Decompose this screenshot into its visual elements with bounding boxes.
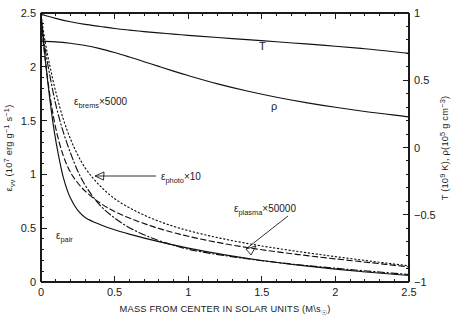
brems-sub: brems: [78, 101, 99, 110]
yr-mid2: g cm: [440, 108, 450, 132]
y-right-tick-label: 0.5: [414, 74, 429, 86]
curve-label-rho: ρ: [271, 100, 277, 112]
pair-sub: pair: [60, 235, 73, 244]
yl-exp2: −1: [2, 124, 11, 133]
y-right-tick-label: −1: [414, 276, 427, 288]
y-left-tick-label: 2: [30, 61, 36, 73]
y-right-tick-label: 0: [414, 142, 420, 154]
x-tick-label: 1.5: [254, 286, 269, 298]
figure-container: 00.511.522.500.511.522.5−1−0.500.51 T ρ …: [0, 0, 457, 322]
x-tick-label: 0.5: [107, 286, 122, 298]
x-tick-label: 1: [185, 286, 191, 298]
x-title-main: MASS FROM CENTER IN SOLAR UNITS (M\s: [120, 304, 322, 314]
y-left-tick-label: 2.5: [21, 7, 36, 19]
plasma-suffix: ×50000: [262, 203, 296, 214]
curve-label-T: T: [259, 40, 266, 52]
x-title-close: ): [327, 304, 330, 314]
chart-svg: 00.511.522.500.511.522.5−1−0.500.51 T ρ …: [0, 0, 457, 322]
y-left-tick-label: 0: [30, 276, 36, 288]
yl-mid2: s: [4, 117, 14, 125]
yr-t: T (10: [440, 178, 450, 201]
y-left-tick-label: 1.5: [21, 115, 36, 127]
y-right-tick-label: −0.5: [414, 209, 436, 221]
brems-suffix: ×5000: [99, 96, 128, 107]
yl-exp3: −1: [2, 108, 11, 117]
yl-mid: erg g: [4, 133, 14, 158]
y-right-tick-label: 1: [414, 7, 420, 19]
plasma-sub: plasma: [238, 208, 263, 217]
yl-sub: νν: [8, 179, 17, 187]
y-left-tick-label: 1: [30, 168, 36, 180]
photo-sub: photo: [165, 176, 184, 185]
y-axis-right-title: T (109 K), ρ(105 g cm−3): [438, 96, 450, 201]
x-tick-label: 0: [38, 286, 44, 298]
y-left-tick-label: 0.5: [21, 222, 36, 234]
yr-rho: ρ(10: [440, 136, 450, 156]
yl-open: (10: [4, 162, 14, 179]
photo-suffix: ×10: [184, 171, 201, 182]
yl-close: ): [4, 105, 14, 108]
x-tick-label: 2: [332, 286, 338, 298]
yr-exp3: −3: [438, 99, 447, 108]
yr-mid: K),: [440, 155, 450, 173]
yr-close: ): [440, 96, 450, 99]
